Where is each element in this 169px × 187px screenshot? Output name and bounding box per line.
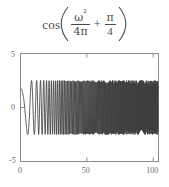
y-tick-label-minus5: -5 [9,156,16,165]
exponent-two: 2 [83,7,87,15]
x-tick-label-50: 50 [82,166,90,175]
fraction-numerator-pi: π [105,12,116,24]
y-tick-label-0: 0 [11,103,15,112]
formula-caption: cos ω2 4π + π 4 [0,2,169,46]
omega-symbol: ω [74,11,83,24]
cosine-function-label: cos [42,18,60,31]
pi-over-four-fraction: π 4 [105,12,116,37]
x-tick-label-0: 0 [18,166,22,175]
fraction-denominator-four-pi: 4π [71,25,89,37]
close-paren-icon [118,6,127,42]
omega-squared-over-four-pi-fraction: ω2 4π [71,11,89,37]
x-tick-label-100: 100 [146,166,158,175]
y-tick-label-5: 5 [11,50,15,59]
figure-root: cos ω2 4π + π 4 [0,0,169,187]
open-paren-icon [60,6,69,42]
plus-operator: + [94,18,101,30]
chirp-plot: 5 0 -5 0 50 100 [0,48,169,187]
formula-expression: cos ω2 4π + π 4 [42,6,126,42]
fraction-denominator-four: 4 [105,25,115,37]
fraction-numerator-omega-squared: ω2 [72,11,88,24]
